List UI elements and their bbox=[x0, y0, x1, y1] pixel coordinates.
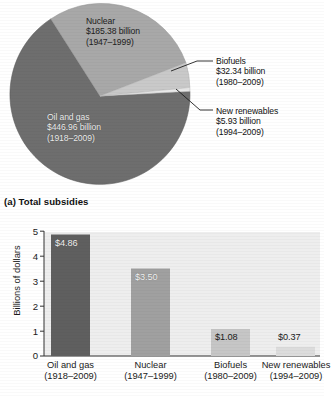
x-category-new-renewables: New renewables (1994–2009) bbox=[253, 360, 335, 383]
x-category-nuclear-name: Nuclear bbox=[111, 360, 190, 371]
x-category-oil-and-gas-name: Oil and gas bbox=[31, 360, 110, 371]
y-tick-label-2: 2 bbox=[22, 301, 38, 312]
bar-value-new-renewables: $0.37 bbox=[278, 332, 301, 342]
y-tick-label-3: 3 bbox=[22, 276, 38, 287]
bar-value-nuclear: $3.50 bbox=[135, 272, 158, 282]
bar-value-oil-and-gas: $4.86 bbox=[55, 238, 78, 248]
bar-value-biofuels: $1.08 bbox=[215, 332, 238, 342]
panel-a-caption: (a) Total subsidies bbox=[4, 196, 88, 207]
y-axis-label: Billions of dollars bbox=[11, 231, 22, 331]
pie-label-nuclear-years: (1947–1999) bbox=[86, 37, 140, 47]
x-category-nuclear: Nuclear (1947–1999) bbox=[111, 360, 190, 383]
pie-label-new-renewables-name: New renewables bbox=[216, 106, 278, 116]
pie-label-oil-and-gas-amount: $446.96 billion bbox=[47, 122, 101, 132]
pie-label-biofuels-amount: $32.34 billion bbox=[216, 66, 265, 76]
pie-label-oil-and-gas-name: Oil and gas bbox=[47, 112, 101, 122]
pie-label-biofuels-years: (1980–2009) bbox=[216, 77, 265, 87]
pie-label-biofuels-name: Biofuels bbox=[216, 56, 265, 66]
bar-new-renewables bbox=[276, 347, 315, 356]
y-tick-label-4: 4 bbox=[22, 251, 38, 262]
bar-chart-panel: Billions of dollars 5 4 3 2 1 0 $4.86 $3… bbox=[0, 215, 324, 396]
pie-label-oil-and-gas: Oil and gas $446.96 billion (1918–2009) bbox=[47, 112, 101, 143]
pie-label-biofuels: Biofuels $32.34 billion (1980–2009) bbox=[216, 56, 265, 87]
pie-label-new-renewables: New renewables $5.93 billion (1994–2009) bbox=[216, 106, 278, 137]
pie-label-nuclear: Nuclear $185.38 billion (1947–1999) bbox=[86, 16, 140, 47]
pie-label-oil-and-gas-years: (1918–2009) bbox=[47, 133, 101, 143]
pie-label-new-renewables-amount: $5.93 billion bbox=[216, 116, 278, 126]
x-category-nuclear-years: (1947–1999) bbox=[111, 371, 190, 382]
pie-label-new-renewables-years: (1994–2009) bbox=[216, 127, 278, 137]
x-category-new-renewables-name: New renewables bbox=[253, 360, 335, 371]
x-category-oil-and-gas: Oil and gas (1918–2009) bbox=[31, 360, 110, 383]
pie-chart-graphic bbox=[0, 0, 324, 196]
bar-oil-and-gas bbox=[51, 235, 90, 357]
x-category-new-renewables-years: (1994–2009) bbox=[253, 371, 335, 382]
pie-chart-panel: Nuclear $185.38 billion (1947–1999) Oil … bbox=[0, 0, 324, 196]
pie-label-nuclear-name: Nuclear bbox=[86, 16, 140, 26]
y-tick-label-5: 5 bbox=[22, 226, 38, 237]
y-tick-label-1: 1 bbox=[22, 326, 38, 337]
x-category-oil-and-gas-years: (1918–2009) bbox=[31, 371, 110, 382]
pie-label-nuclear-amount: $185.38 billion bbox=[86, 26, 140, 36]
